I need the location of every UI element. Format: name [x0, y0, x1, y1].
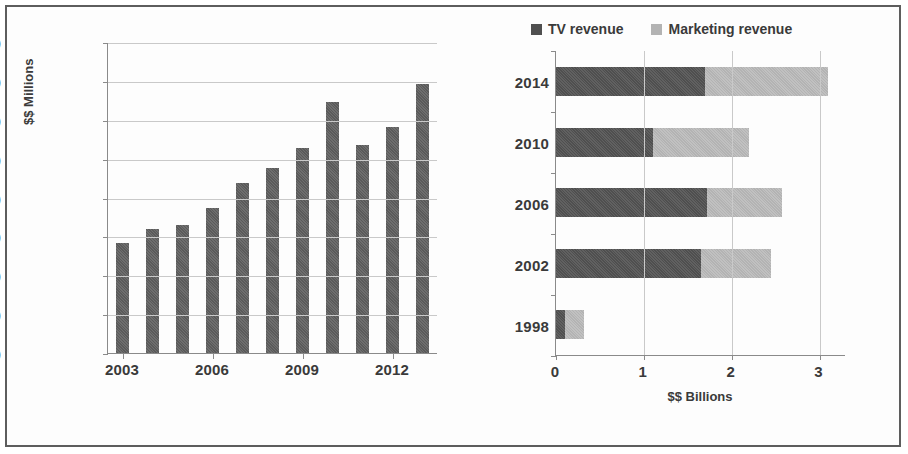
- right-chart-y-tick-label: 2002: [479, 256, 549, 273]
- legend-swatch-icon: [531, 24, 542, 35]
- right-chart-legend: TV revenueMarketing revenue: [531, 21, 792, 37]
- left-chart-bar: [116, 243, 129, 353]
- right-chart-bar-segment: [556, 128, 653, 157]
- vertical-bar-chart: $$ Millions 0200400600800100012001400160…: [7, 7, 469, 449]
- left-chart-y-tickmark: [103, 315, 108, 316]
- left-chart-gridline: [108, 237, 437, 238]
- left-chart-x-tickmark: [303, 354, 304, 359]
- figure-frame: $$ Millions 0200400600800100012001400160…: [5, 5, 901, 447]
- left-chart-bar: [356, 145, 369, 353]
- left-chart-bar: [176, 225, 189, 353]
- right-chart-x-tick-label: 3: [814, 363, 823, 380]
- right-chart-x-tick-label: 2: [726, 363, 735, 380]
- right-chart-x-tickmark: [556, 355, 557, 360]
- right-chart-bar-row: [556, 188, 845, 217]
- left-chart-x-tickmark: [123, 354, 124, 359]
- left-chart-y-tick-label: 1400: [0, 73, 1, 90]
- left-chart-y-tick-label: 400: [0, 268, 1, 285]
- legend-label: Marketing revenue: [668, 21, 792, 37]
- right-chart-y-tickmark: [551, 173, 556, 174]
- left-chart-y-tickmark: [103, 160, 108, 161]
- left-chart-y-tickmark: [103, 82, 108, 83]
- left-chart-y-tickmark: [103, 121, 108, 122]
- right-chart-panel: TV revenueMarketing revenue $$ Billions …: [469, 7, 901, 445]
- right-chart-bar-segment: [556, 188, 707, 217]
- left-chart-bar: [296, 148, 309, 353]
- right-chart-x-tickmark: [644, 355, 645, 360]
- left-chart-y-tickmark: [103, 43, 108, 44]
- right-chart-y-tickmark: [551, 295, 556, 296]
- right-chart-bar-segment: [701, 249, 771, 278]
- right-chart-x-tickmark: [732, 355, 733, 360]
- left-chart-gridline: [108, 43, 437, 44]
- right-chart-y-tick-label: 2010: [479, 134, 549, 151]
- left-chart-bar: [146, 229, 159, 353]
- right-chart-bar-row: [556, 249, 845, 278]
- left-chart-y-tickmark: [103, 199, 108, 200]
- left-chart-bar: [416, 84, 429, 353]
- left-chart-y-tickmark: [103, 237, 108, 238]
- left-chart-gridline: [108, 121, 437, 122]
- left-chart-bar: [266, 168, 279, 353]
- right-chart-plot-area: [555, 51, 845, 356]
- right-chart-y-tickmark: [551, 356, 556, 357]
- right-chart-gridline: [644, 51, 645, 355]
- right-chart-bars: [556, 51, 845, 355]
- left-chart-x-tickmark: [393, 354, 394, 359]
- right-chart-x-axis-title: $$ Billions: [555, 389, 845, 404]
- left-chart-bar: [236, 183, 249, 353]
- right-chart-bar-row: [556, 67, 845, 96]
- right-chart-y-tickmark: [551, 112, 556, 113]
- left-chart-gridline: [108, 82, 437, 83]
- left-chart-plot-area: [107, 43, 437, 354]
- left-chart-gridline: [108, 276, 437, 277]
- right-chart-x-tickmark: [820, 355, 821, 360]
- left-chart-x-tick-label: 2009: [285, 361, 319, 378]
- left-chart-y-tick-label: 200: [0, 307, 1, 324]
- left-chart-y-tickmark: [103, 276, 108, 277]
- right-chart-gridline: [820, 51, 821, 355]
- right-chart-bar-segment: [556, 67, 705, 96]
- left-chart-gridline: [108, 160, 437, 161]
- right-chart-y-tick-label: 2014: [479, 73, 549, 90]
- right-chart-x-tick-label: 1: [639, 363, 648, 380]
- left-chart-panel: $$ Millions 0200400600800100012001400160…: [7, 7, 469, 445]
- left-chart-y-axis-title: $$ Millions: [21, 59, 36, 125]
- legend-swatch-icon: [651, 24, 662, 35]
- right-chart-y-tick-label: 2006: [479, 195, 549, 212]
- left-chart-y-tick-label: 1600: [0, 35, 1, 52]
- left-chart-bar: [206, 208, 219, 353]
- left-chart-y-tick-label: 0: [0, 346, 1, 363]
- left-chart-x-tick-label: 2006: [195, 361, 229, 378]
- right-chart-x-tick-label: 0: [551, 363, 560, 380]
- right-chart-bar-row: [556, 310, 845, 339]
- left-chart-y-tick-label: 600: [0, 229, 1, 246]
- right-chart-y-tickmark: [551, 234, 556, 235]
- stacked-horizontal-bar-chart: TV revenueMarketing revenue $$ Billions …: [469, 7, 901, 449]
- right-chart-bar-segment: [565, 310, 584, 339]
- right-chart-bar-segment: [556, 310, 565, 339]
- right-chart-gridline: [732, 51, 733, 355]
- left-chart-x-tick-label: 2003: [105, 361, 139, 378]
- right-chart-bar-segment: [707, 188, 782, 217]
- left-chart-y-tick-label: 1200: [0, 112, 1, 129]
- left-chart-gridline: [108, 315, 437, 316]
- left-chart-y-tick-label: 800: [0, 190, 1, 207]
- right-chart-y-tick-label: 1998: [479, 317, 549, 334]
- left-chart-y-tick-label: 1000: [0, 151, 1, 168]
- legend-item[interactable]: TV revenue: [531, 21, 623, 37]
- legend-label: TV revenue: [548, 21, 623, 37]
- legend-item[interactable]: Marketing revenue: [651, 21, 792, 37]
- left-chart-gridline: [108, 199, 437, 200]
- right-chart-y-tickmark: [551, 51, 556, 52]
- right-chart-bar-segment: [556, 249, 701, 278]
- right-chart-bar-segment: [705, 67, 828, 96]
- left-chart-x-tick-label: 2012: [375, 361, 409, 378]
- left-chart-y-tickmark: [103, 354, 108, 355]
- right-chart-bar-row: [556, 128, 845, 157]
- left-chart-x-tickmark: [213, 354, 214, 359]
- right-chart-bar-segment: [653, 128, 750, 157]
